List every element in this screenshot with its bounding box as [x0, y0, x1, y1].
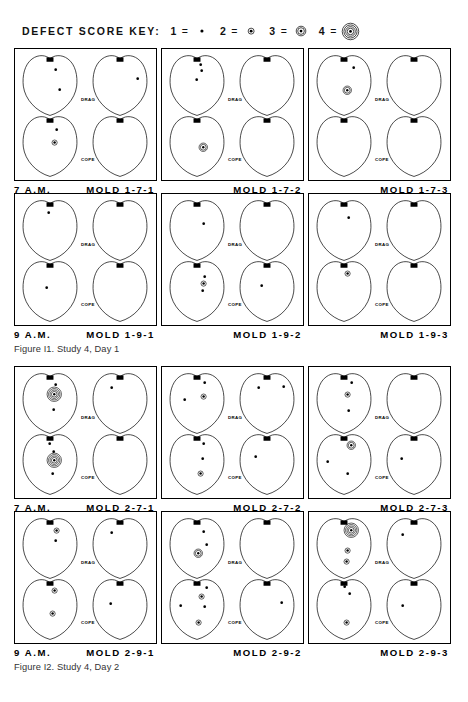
- drag-label: DRAG: [81, 242, 95, 247]
- mold-cavity-drag-right[interactable]: [238, 372, 296, 434]
- cope-label: COPE: [375, 475, 389, 480]
- mold-cavity-drag-right[interactable]: [385, 54, 443, 116]
- mold-panel[interactable]: DRAGCOPE: [308, 48, 451, 181]
- mold-cavity-cope-left[interactable]: [21, 433, 79, 495]
- defect-mark-score-1: [202, 530, 205, 533]
- mold-cavity-drag-left[interactable]: [21, 54, 79, 116]
- mold-cavity-drag-left[interactable]: [21, 517, 79, 579]
- mold-cavity-drag-right[interactable]: [385, 372, 443, 434]
- defect-mark-score-1: [52, 408, 55, 411]
- mold-cavity-cope-right[interactable]: [385, 115, 443, 177]
- cope-label: COPE: [375, 157, 389, 162]
- defect-mark-score-1: [47, 211, 50, 214]
- defect-mark-score-3: [193, 548, 204, 559]
- mold-panel[interactable]: DRAGCOPE: [161, 511, 304, 644]
- cope-label: COPE: [81, 302, 95, 307]
- mold-cavity-cope-left[interactable]: [21, 578, 79, 640]
- mold-cavity-drag-left[interactable]: [168, 199, 226, 261]
- defect-mark-score-4: [343, 522, 360, 539]
- drag-label: DRAG: [81, 415, 95, 420]
- mold-cavity-drag-right[interactable]: [385, 199, 443, 261]
- mold-panel[interactable]: DRAGCOPE: [308, 366, 451, 499]
- mold-panel[interactable]: DRAGCOPE: [161, 193, 304, 326]
- mold-panel[interactable]: DRAGCOPE: [161, 366, 304, 499]
- mold-cavity-cope-left[interactable]: [315, 433, 373, 495]
- defect-mark-score-2: [49, 610, 56, 617]
- mold-cavity-cope-right[interactable]: [91, 260, 149, 322]
- defect-mark-score-1: [199, 63, 202, 66]
- mold-cavity-cope-right[interactable]: [91, 578, 149, 640]
- defect-mark-score-1: [202, 442, 205, 445]
- defect-mark-score-2: [344, 270, 351, 277]
- mold-cavity-cope-left[interactable]: [168, 260, 226, 322]
- mold-cavity-cope-right[interactable]: [385, 260, 443, 322]
- score-2-ring-icon: [242, 27, 260, 35]
- defect-mark-score-2: [195, 619, 202, 626]
- mold-panel[interactable]: DRAGCOPE: [161, 48, 304, 181]
- mold-panel[interactable]: DRAGCOPE: [308, 193, 451, 326]
- mold-cavity-drag-right[interactable]: [91, 54, 149, 116]
- mold-cavity-drag-left[interactable]: [168, 517, 226, 579]
- defect-mark-score-2: [53, 527, 60, 534]
- defect-mark-score-1: [205, 586, 208, 589]
- defect-mark-score-1: [201, 457, 204, 460]
- cope-label: COPE: [375, 620, 389, 625]
- mold-cavity-drag-left[interactable]: [315, 372, 373, 434]
- mold-cavity-cope-left[interactable]: [168, 115, 226, 177]
- defect-mark-score-1: [58, 88, 61, 91]
- key-item-1: 1=: [170, 25, 210, 37]
- mold-cavity-drag-left[interactable]: [21, 372, 79, 434]
- mold-cavity-drag-right[interactable]: [238, 199, 296, 261]
- mold-cavity-cope-left[interactable]: [21, 260, 79, 322]
- mold-cavity-cope-left[interactable]: [21, 115, 79, 177]
- mold-cavity-cope-right[interactable]: [238, 260, 296, 322]
- drag-label: DRAG: [375, 97, 389, 102]
- mold-panel[interactable]: DRAGCOPE: [14, 366, 157, 499]
- defect-mark-score-1: [352, 66, 355, 69]
- mold-cavity-drag-left[interactable]: [315, 517, 373, 579]
- mold-cavity-cope-right[interactable]: [91, 115, 149, 177]
- mold-cavity-cope-left[interactable]: [168, 578, 226, 640]
- score-3-ring-icon: [292, 25, 310, 37]
- mold-panel[interactable]: DRAGCOPE: [14, 511, 157, 644]
- cope-label: COPE: [81, 157, 95, 162]
- mold-cavity-cope-left[interactable]: [315, 260, 373, 322]
- mold-panel[interactable]: DRAGCOPE: [14, 193, 157, 326]
- defect-mark-score-1: [400, 457, 403, 460]
- mold-cavity-cope-right[interactable]: [238, 578, 296, 640]
- mold-cavity-cope-left[interactable]: [168, 433, 226, 495]
- key-item-4: 4=: [319, 22, 359, 41]
- defect-mark-score-1: [202, 222, 205, 225]
- mold-cavity-drag-left[interactable]: [168, 372, 226, 434]
- mold-cavity-cope-left[interactable]: [315, 578, 373, 640]
- mold-cavity-cope-right[interactable]: [385, 578, 443, 640]
- defect-mark-score-4: [46, 452, 63, 469]
- mold-panel[interactable]: DRAGCOPE: [14, 48, 157, 181]
- mold-cavity-drag-left[interactable]: [315, 54, 373, 116]
- mold-cavity-drag-right[interactable]: [91, 372, 149, 434]
- mold-cavity-cope-right[interactable]: [385, 433, 443, 495]
- mold-cavity-cope-right[interactable]: [238, 115, 296, 177]
- mold-cavity-drag-left[interactable]: [21, 199, 79, 261]
- mold-cavity-drag-right[interactable]: [238, 517, 296, 579]
- drag-label: DRAG: [81, 97, 95, 102]
- defect-mark-score-1: [401, 604, 404, 607]
- mold-panel-label: MOLD 2-9-2: [233, 647, 302, 658]
- mold-cavity-drag-right[interactable]: [91, 199, 149, 261]
- mold-cavity-cope-right[interactable]: [91, 433, 149, 495]
- mold-cavity-drag-right[interactable]: [385, 517, 443, 579]
- mold-cavity-drag-right[interactable]: [91, 517, 149, 579]
- mold-cavity-cope-right[interactable]: [238, 433, 296, 495]
- drag-label: DRAG: [375, 242, 389, 247]
- mold-cavity-drag-left[interactable]: [168, 54, 226, 116]
- mold-cavity-cope-left[interactable]: [315, 115, 373, 177]
- mold-cavity-drag-left[interactable]: [315, 199, 373, 261]
- defect-mark-score-1: [179, 604, 182, 607]
- mold-cavity-drag-right[interactable]: [238, 54, 296, 116]
- defect-mark-score-1: [346, 472, 349, 475]
- mold-panel[interactable]: DRAGCOPE: [308, 511, 451, 644]
- defect-mark-score-1: [48, 442, 51, 445]
- drag-label: DRAG: [375, 415, 389, 420]
- defect-mark-score-1: [203, 605, 206, 608]
- defect-mark-score-3: [198, 142, 209, 153]
